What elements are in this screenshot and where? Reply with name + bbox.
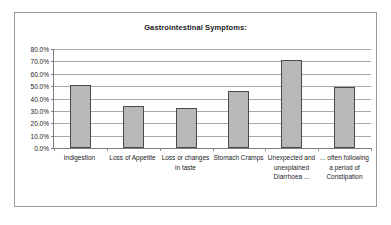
x-axis-category-labels: IndigestionLoss of AppetiteLoss or chang…: [53, 153, 371, 182]
category-label: Loss of Appetite: [106, 153, 159, 182]
bar-slot: [212, 49, 265, 148]
plot-area-wrapper: 80.0%70.0%60.0%50.0%40.0%30.0%20.0%10.0%…: [53, 49, 371, 149]
y-axis-tick-label: 50.0%: [31, 83, 49, 90]
y-axis-tick-label: 30.0%: [31, 107, 49, 114]
bar[interactable]: [228, 91, 249, 148]
bar[interactable]: [123, 106, 144, 148]
category-label: Unexpected and unexplained Diarrhoea ...: [265, 153, 318, 182]
y-axis-tick-label: 60.0%: [31, 70, 49, 77]
x-axis-tick: [213, 148, 214, 151]
x-axis-tick: [160, 148, 161, 151]
x-axis-tick: [107, 148, 108, 151]
bar-slot: [54, 49, 107, 148]
category-label: Loss or changes in taste: [159, 153, 212, 182]
x-axis-tick: [54, 148, 55, 151]
bar-slot: [160, 49, 213, 148]
bar-slot: [265, 49, 318, 148]
x-axis-tick: [318, 148, 319, 151]
y-axis-tick-label: 20.0%: [31, 120, 49, 127]
category-label: ... often following a period of Constipa…: [318, 153, 371, 182]
bar-slot: [318, 49, 371, 148]
x-axis-tick: [371, 148, 372, 151]
category-label: Indigestion: [53, 153, 106, 182]
y-axis-tick-label: 0.0%: [34, 145, 49, 152]
x-axis-tick: [265, 148, 266, 151]
category-label: Stomach Cramps: [212, 153, 265, 182]
y-axis-tick-label: 80.0%: [31, 46, 49, 53]
plot-area: 80.0%70.0%60.0%50.0%40.0%30.0%20.0%10.0%…: [53, 49, 371, 149]
bar-slot: [107, 49, 160, 148]
y-axis-tick-label: 10.0%: [31, 132, 49, 139]
bar[interactable]: [70, 85, 91, 148]
bar-series: [54, 49, 371, 148]
bar[interactable]: [176, 108, 197, 148]
y-axis-tick-label: 70.0%: [31, 58, 49, 65]
chart-title: Gastrointestinal Symptoms:: [15, 23, 376, 32]
bar[interactable]: [281, 60, 302, 148]
y-axis-tick-label: 40.0%: [31, 95, 49, 102]
bar[interactable]: [334, 87, 355, 148]
chart-frame: Gastrointestinal Symptoms: 80.0%70.0%60.…: [14, 12, 377, 207]
